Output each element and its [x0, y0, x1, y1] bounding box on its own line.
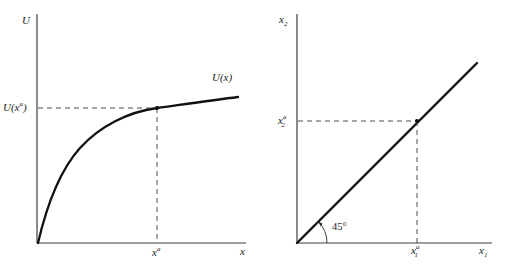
angle-annotation-label: 45°	[332, 222, 347, 233]
y-tick-label-close: )	[23, 101, 27, 113]
certainty-line	[297, 63, 477, 243]
y-axis-label: x2	[279, 14, 287, 25]
x-axis-label: x	[240, 246, 245, 257]
intersection-point-marker	[415, 119, 419, 123]
x-tick-label-superscript: a	[157, 245, 161, 253]
x-tick-label: xa1	[411, 245, 418, 256]
angle-arc	[319, 222, 328, 243]
y-axis-label-subscript: 2	[284, 20, 288, 28]
intersection-point-marker	[155, 106, 159, 110]
x-axis-label-subscript: 1	[484, 251, 488, 259]
y-tick-label: xa2	[278, 115, 285, 126]
utility-curve-svg	[0, 0, 253, 265]
forty-five-degree-line-panel: x2 x1 xa2 xa1 45°	[254, 0, 507, 265]
y-tick-label: U(xa)	[3, 102, 27, 113]
utility-curve	[38, 97, 238, 243]
curve-label: U(x)	[212, 72, 232, 83]
forty-five-degree-svg	[254, 0, 507, 265]
x-tick-label: xa	[152, 247, 160, 258]
y-tick-label-base: U(x	[3, 101, 20, 113]
figure-container: U x U(x) U(xa) xa	[0, 0, 507, 265]
y-axis-label: U	[22, 15, 30, 26]
y-tick-label-subscript: 2	[281, 121, 285, 129]
x-axis-label: x1	[479, 245, 487, 256]
utility-curve-panel: U x U(x) U(xa) xa	[0, 0, 253, 265]
x-tick-label-subscript: 1	[414, 251, 418, 259]
